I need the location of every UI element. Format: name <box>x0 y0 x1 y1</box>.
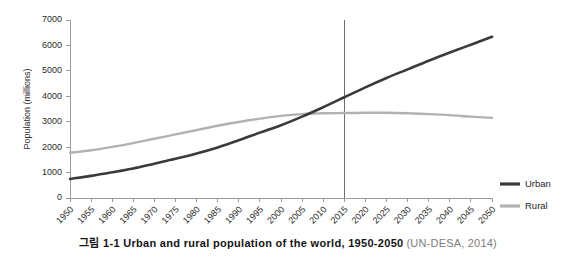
series-line-rural <box>70 113 492 153</box>
y-tick-label: 0 <box>57 192 62 202</box>
y-tick-label: 6000 <box>42 40 62 50</box>
x-tick-label: 1990 <box>223 204 244 225</box>
legend: UrbanRural <box>500 178 551 211</box>
y-tick-label: 3000 <box>42 116 62 126</box>
caption-source-text: (UN-DESA, 2014) <box>406 237 496 249</box>
y-tick-label: 4000 <box>42 91 62 101</box>
x-tick-label: 2020 <box>350 204 371 225</box>
y-axis-group: 01000200030004000500060007000 Population… <box>22 14 70 202</box>
legend-label-rural: Rural <box>525 200 548 211</box>
figure-caption: 그림 1-1 Urban and rural population of the… <box>0 236 576 251</box>
x-axis-group: 1950195519601965197019751980198519901995… <box>54 198 497 226</box>
x-tick-label: 2025 <box>371 204 392 225</box>
line-chart: 01000200030004000500060007000 Population… <box>0 0 576 265</box>
x-tick-label: 2005 <box>286 204 307 225</box>
x-tick-label: 1980 <box>181 204 202 225</box>
y-tick-label: 2000 <box>42 142 62 152</box>
y-tick-label: 1000 <box>42 167 62 177</box>
x-tick-label: 2010 <box>307 204 328 225</box>
figure-container: 01000200030004000500060007000 Population… <box>0 0 576 265</box>
y-tick-group: 01000200030004000500060007000 <box>42 14 70 202</box>
x-tick-label: 2035 <box>413 204 434 225</box>
y-axis-title: Population (millions) <box>22 68 32 149</box>
x-tick-label: 1955 <box>75 204 96 225</box>
x-tick-label: 2000 <box>265 204 286 225</box>
x-tick-label: 1965 <box>117 204 138 225</box>
y-tick-label: 7000 <box>42 14 62 24</box>
series-layer <box>70 37 492 179</box>
x-tick-label: 1975 <box>160 204 181 225</box>
x-tick-label: 1950 <box>54 204 75 225</box>
x-tick-label: 1960 <box>96 204 117 225</box>
x-tick-group: 1950195519601965197019751980198519901995… <box>54 198 497 226</box>
y-tick-label: 5000 <box>42 65 62 75</box>
x-tick-label: 2030 <box>392 204 413 225</box>
legend-label-urban: Urban <box>525 178 551 189</box>
x-tick-label: 1985 <box>202 204 223 225</box>
series-line-urban <box>70 37 492 179</box>
x-tick-label: 1970 <box>139 204 160 225</box>
x-tick-label: 1995 <box>244 204 265 225</box>
x-tick-label: 2015 <box>328 204 349 225</box>
x-tick-label: 2050 <box>476 204 497 225</box>
x-tick-label: 2040 <box>434 204 455 225</box>
caption-main-text: 그림 1-1 Urban and rural population of the… <box>79 237 403 249</box>
x-tick-label: 2045 <box>455 204 476 225</box>
